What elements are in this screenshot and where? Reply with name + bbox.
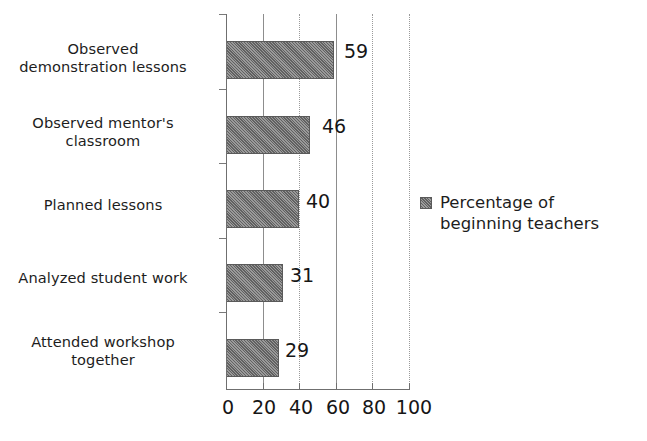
value-label-planned-lessons: 40	[306, 192, 330, 211]
category-label-observed-demonstration-lessons: Observed demonstration lessons	[0, 40, 206, 75]
x-axis-tick-60	[336, 383, 337, 390]
x-axis-tick-100	[409, 383, 410, 390]
category-label-line: Planned lessons	[44, 196, 163, 213]
x-axis-tick-0	[226, 383, 227, 390]
x-tick-label-0: 0	[222, 396, 234, 418]
legend: Percentage of beginning teachers	[420, 192, 644, 234]
x-tick-label-40: 40	[289, 396, 313, 418]
x-tick-label-100: 100	[396, 396, 432, 418]
bar-observed-demonstration-lessons	[226, 41, 334, 79]
bar-attended-workshop-together	[226, 339, 279, 377]
value-label-observed-demonstration-lessons: 59	[344, 42, 368, 61]
y-axis-tick	[219, 14, 226, 15]
value-label-analyzed-student-work: 31	[290, 266, 314, 285]
gridline-60	[336, 14, 337, 388]
x-tick-label-80: 80	[362, 396, 386, 418]
category-label-attended-workshop-together: Attended workshop together	[0, 333, 206, 368]
value-label-observed-mentors-classroom: 46	[322, 117, 346, 136]
category-label-line: Observed	[67, 40, 138, 57]
category-label-line: classroom	[66, 132, 141, 149]
gridline-100	[409, 14, 410, 388]
x-axis-tick-20	[263, 383, 264, 390]
value-label-attended-workshop-together: 29	[285, 341, 309, 360]
y-axis-tick	[219, 238, 226, 239]
category-axis-labels: Observed demonstration lessons Observed …	[0, 14, 214, 388]
gridline-80	[372, 14, 373, 388]
category-label-analyzed-student-work: Analyzed student work	[0, 269, 206, 287]
x-tick-label-60: 60	[326, 396, 350, 418]
y-axis-tick	[219, 89, 226, 90]
category-label-observed-mentors-classroom: Observed mentor's classroom	[0, 114, 206, 149]
legend-label-line: Percentage of	[440, 193, 554, 212]
legend-label: Percentage of beginning teachers	[440, 192, 599, 234]
category-label-line: together	[71, 351, 135, 368]
x-axis-tick-labels: 0 20 40 60 80 100	[0, 396, 647, 424]
bar-chart: Observed demonstration lessons Observed …	[0, 0, 647, 441]
legend-swatch-icon	[420, 197, 432, 209]
y-axis-tick	[219, 312, 226, 313]
x-axis-tick-80	[372, 383, 373, 390]
x-tick-label-20: 20	[252, 396, 276, 418]
category-label-planned-lessons: Planned lessons	[0, 196, 206, 214]
category-label-line: Analyzed student work	[18, 269, 187, 286]
y-axis-line	[226, 14, 227, 389]
x-axis-line	[226, 389, 410, 390]
category-label-line: demonstration lessons	[19, 58, 187, 75]
bar-analyzed-student-work	[226, 264, 283, 302]
legend-label-line: beginning teachers	[440, 214, 599, 233]
bar-observed-mentors-classroom	[226, 116, 310, 154]
bar-planned-lessons	[226, 190, 299, 228]
category-label-line: Attended workshop	[31, 333, 175, 350]
category-label-line: Observed mentor's	[32, 114, 173, 131]
y-axis-tick	[219, 163, 226, 164]
x-axis-tick-40	[299, 383, 300, 390]
